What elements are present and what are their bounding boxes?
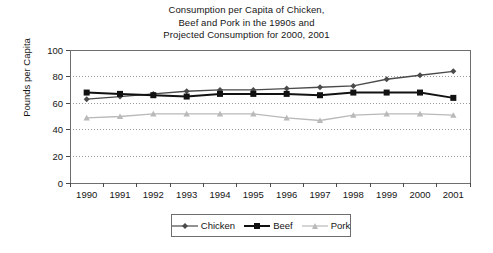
x-tick-label: 2000 — [409, 189, 430, 200]
legend-label-pork: Pork — [331, 220, 351, 231]
x-tick-label: 1997 — [309, 189, 330, 200]
x-tick-label: 1992 — [143, 189, 164, 200]
legend-label-beef: Beef — [273, 220, 293, 231]
legend-item-chicken: Chicken — [172, 220, 235, 231]
series-pork — [83, 111, 456, 123]
legend-marker-pork-icon — [302, 221, 328, 231]
plot-frame — [70, 50, 470, 183]
y-tick-label: 60 — [52, 98, 63, 109]
legend-item-pork: Pork — [302, 220, 351, 231]
series-chicken — [84, 68, 457, 102]
x-tick-label: 1996 — [276, 189, 297, 200]
x-tick-label: 1993 — [176, 189, 197, 200]
series-beef — [84, 90, 457, 101]
y-tick-label: 100 — [47, 45, 63, 56]
chart-container: Consumption per Capita of Chicken, Beef … — [0, 0, 493, 253]
y-tick-label: 20 — [52, 151, 63, 162]
x-tick-label: 1999 — [376, 189, 397, 200]
y-tick-label: 80 — [52, 71, 63, 82]
chart-legend: Chicken Beef Pork — [171, 214, 351, 237]
x-tick-label: 1990 — [76, 189, 97, 200]
gridlines — [70, 50, 470, 156]
legend-marker-chicken-icon — [172, 221, 198, 231]
x-tick-label: 1991 — [109, 189, 130, 200]
legend-marker-beef-icon — [244, 221, 270, 231]
legend-item-beef: Beef — [244, 220, 293, 231]
y-tick-label: 40 — [52, 124, 63, 135]
axis-ticks — [66, 50, 470, 187]
x-tick-label: 1995 — [243, 189, 264, 200]
legend-label-chicken: Chicken — [201, 220, 235, 231]
x-axis-tick-labels: 1990199119921993199419951996199719981999… — [76, 189, 464, 200]
x-tick-label: 2001 — [443, 189, 464, 200]
x-tick-label: 1994 — [209, 189, 230, 200]
x-tick-label: 1998 — [343, 189, 364, 200]
y-axis-tick-labels: 020406080100 — [47, 45, 63, 189]
y-tick-label: 0 — [58, 178, 63, 189]
